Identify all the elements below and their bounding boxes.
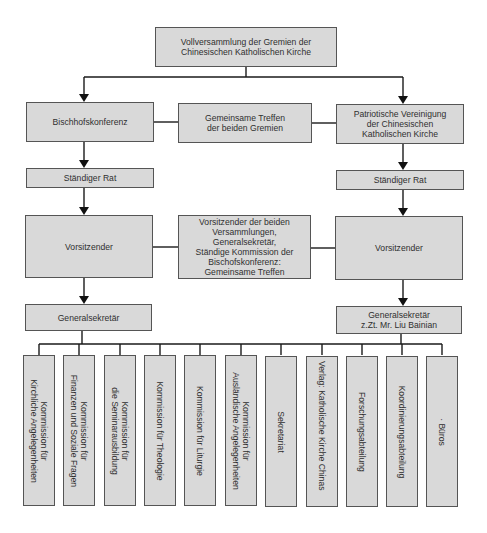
department-label: Kommission für die Seminarausbildung <box>110 357 130 505</box>
department-box: Sekretariat <box>265 356 297 507</box>
department-box: Verlag: Katholische Kirche Chinas <box>306 356 338 507</box>
arrow-icon <box>79 296 89 304</box>
left-standing-council-box: Ständiger Rat <box>26 168 154 188</box>
department-label: · Büros <box>437 358 447 506</box>
joint-meeting-box: Gemeinsame Treffen der beiden Gremien <box>178 103 312 143</box>
right-chair-box: Vorsitzender <box>335 216 463 280</box>
arrow-icon <box>79 160 89 168</box>
plenary-assembly-box: Vollversammlung der Gremien der Chinesis… <box>155 27 337 67</box>
right-secretary-general-box: Generalsekretär z.Zt. Mr. Liu Bainian <box>336 306 462 334</box>
arrow-icon <box>79 94 89 102</box>
org-chart: Vollversammlung der Gremien der Chinesis… <box>0 0 487 533</box>
department-label: Forschungsabteilung <box>357 358 367 506</box>
patriotic-association-box: Patriotische Vereinigung der Chinesische… <box>336 104 464 144</box>
department-box: · Büros <box>426 356 458 507</box>
department-box: Kommission für Kirchliche Angelegenheite… <box>23 355 55 506</box>
department-label: Kommission für Liturgie <box>195 357 205 505</box>
department-box: Kommission für die Seminarausbildung <box>104 355 136 506</box>
arrow-icon <box>398 208 408 216</box>
department-box: Kommission für Finanzen und Soziale Frag… <box>63 355 95 506</box>
joint-leadership-box: Vorsitzender der beiden Versammlungen, G… <box>178 215 311 279</box>
department-box: Kommission für Theologie <box>144 355 176 506</box>
department-box: Kommission für Ausländische Angelegenhei… <box>225 355 257 506</box>
department-label: Kommission für Ausländische Angelegenhei… <box>231 357 251 505</box>
bishops-conference-box: Bischhofskonferenz <box>26 102 154 142</box>
left-chair-box: Vorsitzender <box>25 215 153 278</box>
arrow-icon <box>398 162 408 170</box>
department-label: Kommission für Finanzen und Soziale Frag… <box>69 357 89 505</box>
department-label: Kommission für Theologie <box>155 357 165 505</box>
arrow-icon <box>398 96 408 104</box>
department-label: Sekretariat <box>276 358 286 506</box>
right-standing-council-box: Ständiger Rat <box>336 170 464 190</box>
arrow-icon <box>398 298 408 306</box>
department-label: Verlag: Katholische Kirche Chinas <box>317 358 327 506</box>
left-secretary-general-box: Generalsekretär <box>25 304 152 331</box>
department-box: Koordinierungsabteilung <box>386 356 418 507</box>
department-box: Forschungsabteilung <box>346 356 378 507</box>
department-box: Kommission für Liturgie <box>184 355 216 506</box>
department-label: Kommission für Kirchliche Angelegenheite… <box>29 357 49 505</box>
department-label: Koordinierungsabteilung <box>397 358 407 506</box>
arrow-icon <box>79 207 89 215</box>
